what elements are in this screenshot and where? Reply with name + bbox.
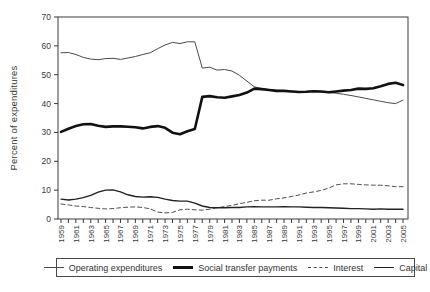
y-tick-label: 30 bbox=[42, 127, 52, 137]
legend-item-capital: Capital bbox=[374, 263, 427, 273]
plot-area: 0102030405060701959196119631965196719691… bbox=[0, 0, 430, 254]
x-tick-label: 1987 bbox=[265, 224, 274, 242]
x-tick-label: 1983 bbox=[235, 224, 244, 242]
legend-item-operating-expenditures: Operating expenditures bbox=[44, 263, 163, 273]
expenditures-line-chart: Percent of expenditures 0102030405060701… bbox=[0, 0, 430, 292]
x-tick-label: 2005 bbox=[399, 224, 408, 242]
legend-line-sample-operating-expenditures bbox=[44, 267, 64, 268]
x-tick-label: 1995 bbox=[325, 224, 334, 242]
x-tick-label: 1963 bbox=[87, 224, 96, 242]
legend-label: Interest bbox=[333, 263, 363, 273]
y-tick-label: 50 bbox=[42, 70, 52, 80]
legend-line-sample-interest bbox=[308, 267, 328, 268]
x-tick-label: 1969 bbox=[131, 224, 140, 242]
legend-line-sample-social-transfer-payments bbox=[173, 266, 193, 269]
x-tick-label: 1971 bbox=[146, 224, 155, 242]
x-tick-label: 2003 bbox=[384, 224, 393, 242]
x-tick-label: 1967 bbox=[116, 224, 125, 242]
y-tick-label: 0 bbox=[46, 214, 51, 224]
legend-item-interest: Interest bbox=[308, 263, 363, 273]
series-line-capital bbox=[61, 190, 403, 209]
x-tick-label: 1997 bbox=[340, 224, 349, 242]
x-tick-label: 1999 bbox=[354, 224, 363, 242]
x-tick-label: 1961 bbox=[72, 224, 81, 242]
legend-label: Capital bbox=[399, 263, 427, 273]
series-line-social-transfer-payments bbox=[61, 83, 403, 134]
y-tick-label: 60 bbox=[42, 41, 52, 51]
legend-label: Operating expenditures bbox=[69, 263, 163, 273]
legend-item-social-transfer-payments: Social transfer payments bbox=[173, 263, 297, 273]
x-tick-label: 1985 bbox=[250, 224, 259, 242]
x-tick-label: 1975 bbox=[176, 224, 185, 242]
x-tick-label: 1979 bbox=[206, 224, 215, 242]
y-tick-label: 40 bbox=[42, 99, 52, 109]
x-tick-label: 1959 bbox=[57, 224, 66, 242]
x-tick-label: 1965 bbox=[102, 224, 111, 242]
x-tick-label: 1977 bbox=[191, 224, 200, 242]
plot-frame bbox=[58, 17, 408, 219]
y-tick-label: 70 bbox=[42, 12, 52, 22]
legend-line-sample-capital bbox=[374, 267, 394, 268]
y-tick-label: 10 bbox=[42, 185, 52, 195]
x-tick-label: 1973 bbox=[161, 224, 170, 242]
x-tick-label: 1991 bbox=[295, 224, 304, 242]
legend: Operating expendituresSocial transfer pa… bbox=[56, 258, 415, 277]
x-tick-label: 1981 bbox=[221, 224, 230, 242]
y-tick-label: 20 bbox=[42, 156, 52, 166]
legend-label: Social transfer payments bbox=[198, 263, 297, 273]
x-tick-label: 2001 bbox=[369, 224, 378, 242]
series-line-operating-expenditures bbox=[61, 42, 403, 104]
x-tick-label: 1993 bbox=[310, 224, 319, 242]
x-tick-label: 1989 bbox=[280, 224, 289, 242]
